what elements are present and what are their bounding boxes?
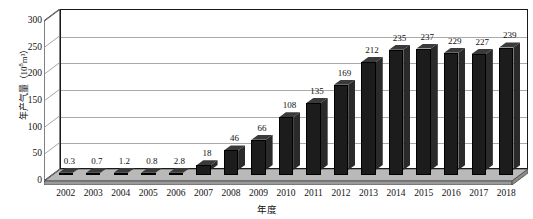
bar-top-face xyxy=(59,168,80,173)
bar-side-face xyxy=(293,112,300,170)
bar-front-face xyxy=(224,150,238,175)
x-tick-label: 2012 xyxy=(332,188,351,198)
bar-value-label: 46 xyxy=(220,134,248,143)
x-tick-label: 2018 xyxy=(497,188,516,198)
bar-front-face xyxy=(444,53,458,175)
bar[interactable] xyxy=(334,9,355,185)
bar-top-face xyxy=(114,168,135,173)
bars-layer: 0.30.71.20.82.81846661081351692122352372… xyxy=(44,9,528,185)
bar-side-face xyxy=(376,57,383,170)
bar-top-face xyxy=(169,168,190,173)
bar-side-face xyxy=(513,42,520,169)
bar-side-face xyxy=(431,44,438,170)
y-tick-label: 50 xyxy=(33,150,43,160)
chart-container: 年产气量（108m³） 050100150200250300 0.30.71.2… xyxy=(0,0,533,219)
bar-front-face xyxy=(389,50,403,175)
y-tick-label: 0 xyxy=(37,176,42,186)
bar-side-face xyxy=(486,49,493,170)
plot-area: 0.30.71.20.82.81846661081351692122352372… xyxy=(44,9,528,185)
bar[interactable] xyxy=(279,9,300,185)
bar-value-label: 135 xyxy=(303,87,331,96)
x-tick-label: 2013 xyxy=(359,188,378,198)
bar-value-label: 0.7 xyxy=(83,157,111,166)
bar[interactable] xyxy=(306,9,327,185)
bar-front-face xyxy=(361,62,375,175)
bar-front-face xyxy=(472,54,486,175)
bar-value-label: 0.8 xyxy=(138,157,166,166)
x-tick-label: 2009 xyxy=(249,188,268,198)
bar-value-label: 239 xyxy=(496,31,524,40)
y-tick-label: 150 xyxy=(28,96,42,106)
bar[interactable] xyxy=(224,9,245,185)
bar-value-label: 0.3 xyxy=(55,157,83,166)
x-axis-title: 年度 xyxy=(0,202,533,216)
bar-value-label: 212 xyxy=(358,46,386,55)
bar[interactable] xyxy=(196,9,217,185)
bar-top-face xyxy=(86,168,107,173)
y-tick-label: 100 xyxy=(28,123,42,133)
bar-side-face xyxy=(458,48,465,170)
bar-value-label: 229 xyxy=(441,37,469,46)
bar-front-face xyxy=(196,165,210,175)
x-tick-label: 2017 xyxy=(469,188,488,198)
bar-value-label: 227 xyxy=(468,38,496,47)
bar-front-face xyxy=(251,140,265,175)
bar-side-face xyxy=(348,80,355,170)
x-tick-label: 2005 xyxy=(139,188,158,198)
bar-value-label: 18 xyxy=(193,149,221,158)
bar-front-face xyxy=(141,173,155,175)
bar-front-face xyxy=(334,85,348,175)
x-tick-label: 2014 xyxy=(387,188,406,198)
bar-side-face xyxy=(266,135,273,170)
x-tick-label: 2004 xyxy=(111,188,130,198)
x-tick-label: 2015 xyxy=(414,188,433,198)
y-tick-label: 300 xyxy=(28,16,42,26)
bar-front-face xyxy=(86,173,100,175)
bar-front-face xyxy=(279,117,293,175)
bar-front-face xyxy=(59,173,73,175)
bar-value-label: 169 xyxy=(331,69,359,78)
bar-front-face xyxy=(306,103,320,175)
y-tick-label: 250 xyxy=(28,43,42,53)
bar-side-face xyxy=(321,98,328,170)
x-tick-label: 2011 xyxy=(304,188,323,198)
bar-value-label: 66 xyxy=(248,124,276,133)
bar-value-label: 235 xyxy=(386,34,414,43)
bar[interactable] xyxy=(472,9,493,185)
x-tick-label: 2016 xyxy=(442,188,461,198)
y-tick-label: 200 xyxy=(28,70,42,80)
x-tick-label: 2010 xyxy=(277,188,296,198)
bar-value-label: 1.2 xyxy=(110,157,138,166)
x-tick-label: 2002 xyxy=(56,188,75,198)
bar-value-label: 237 xyxy=(413,33,441,42)
bar-side-face xyxy=(403,45,410,170)
x-tick-label: 2007 xyxy=(194,188,213,198)
y-axis-ticks: 050100150200250300 xyxy=(12,0,42,219)
bar-value-label: 2.8 xyxy=(165,157,193,166)
bar[interactable] xyxy=(251,9,272,185)
bar-value-label: 108 xyxy=(276,101,304,110)
bar-top-face xyxy=(141,168,162,173)
bar[interactable] xyxy=(361,9,382,185)
x-tick-label: 2003 xyxy=(84,188,103,198)
x-tick-label: 2008 xyxy=(221,188,240,198)
bar-front-face xyxy=(416,49,430,175)
x-tick-label: 2006 xyxy=(166,188,185,198)
bar-front-face xyxy=(114,173,128,175)
bar-front-face xyxy=(499,48,513,175)
bar-front-face xyxy=(169,173,183,175)
